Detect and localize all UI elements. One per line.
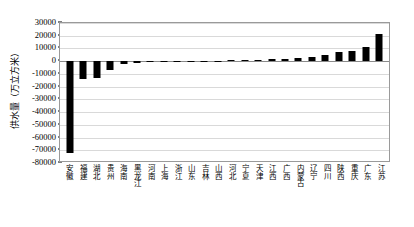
x-label-slot: 安徽 (62, 164, 76, 224)
x-tick-label: 海南 (119, 164, 127, 179)
x-label-slot: 重庆 (346, 164, 360, 224)
x-label-slot: 辽宁 (306, 164, 320, 224)
bar[interactable] (268, 59, 275, 61)
bar[interactable] (66, 61, 73, 153)
bar-slot (130, 23, 143, 161)
x-tick-label: 山东 (187, 164, 195, 179)
bar-slot (184, 23, 197, 161)
x-label-slot: 陕西 (333, 164, 347, 224)
bar-slot (76, 23, 89, 161)
bar[interactable] (214, 61, 221, 62)
x-tick-label: 湖北 (92, 164, 100, 179)
y-tick-label: -80000 (32, 157, 56, 167)
bar-slot (238, 23, 251, 161)
x-tick-label: 安徽 (65, 164, 73, 179)
bar[interactable] (255, 60, 262, 61)
y-tick-label: 20000 (35, 30, 56, 40)
y-tick-label: -30000 (32, 93, 56, 103)
bar-slot (265, 23, 278, 161)
bar[interactable] (160, 61, 167, 62)
bar[interactable] (174, 61, 181, 62)
x-label-slot: 湖北 (89, 164, 103, 224)
x-tick-label: 宁夏 (241, 164, 249, 179)
bar[interactable] (93, 61, 100, 78)
x-label-slot: 广东 (360, 164, 374, 224)
bar-slot (157, 23, 170, 161)
x-tick-label: 内蒙古 (295, 164, 303, 187)
bar[interactable] (187, 61, 194, 62)
x-label-slot: 内蒙古 (292, 164, 306, 224)
bar-slot (90, 23, 103, 161)
x-label-slot: 贵州 (103, 164, 117, 224)
x-label-slot: 山东 (184, 164, 198, 224)
x-tick-label: 广东 (363, 164, 371, 179)
x-label-slot: 四川 (319, 164, 333, 224)
x-axis-tick-labels: 安徽福建湖北贵州海南黑龙江河南上海浙江山东吉林山西河北宁夏天津江西广西内蒙古辽宁… (59, 164, 390, 224)
plot-area (59, 22, 390, 162)
x-tick-label: 辽宁 (309, 164, 317, 179)
y-tick-label: 0 (52, 55, 56, 65)
x-tick-label: 浙江 (173, 164, 181, 179)
x-tick-label: 河南 (146, 164, 154, 179)
bar[interactable] (133, 61, 140, 63)
bar[interactable] (322, 55, 329, 62)
bar[interactable] (362, 47, 369, 62)
x-tick-label: 江西 (268, 164, 276, 179)
x-tick-label: 广西 (282, 164, 290, 179)
bar[interactable] (241, 60, 248, 61)
x-label-slot: 海南 (116, 164, 130, 224)
bar-slot (103, 23, 116, 161)
x-label-slot: 山西 (211, 164, 225, 224)
bar[interactable] (349, 51, 356, 61)
bar-slot (198, 23, 211, 161)
x-tick-label: 黑龙江 (133, 164, 141, 187)
bar[interactable] (335, 52, 342, 62)
y-tick-label: -40000 (32, 106, 56, 116)
y-axis-title-text: 供水量（万立方米） (8, 48, 21, 129)
bar-slot (332, 23, 345, 161)
bar[interactable] (281, 59, 288, 61)
y-tick-label: 10000 (35, 42, 56, 52)
bar[interactable] (376, 34, 383, 61)
bar[interactable] (228, 60, 235, 61)
bar-slot (292, 23, 305, 161)
x-tick-label: 山西 (214, 164, 222, 179)
bar[interactable] (120, 61, 127, 64)
x-label-slot: 宁夏 (238, 164, 252, 224)
bar-slot (117, 23, 130, 161)
bar[interactable] (147, 61, 154, 62)
x-tick-label: 河北 (227, 164, 235, 179)
y-tick-label: -10000 (32, 68, 56, 78)
x-tick-label: 福建 (78, 164, 86, 179)
bar-slot (211, 23, 224, 161)
x-tick-label: 贵州 (105, 164, 113, 179)
bar-chart: 供水量（万立方米） 3000020000100000-10000-20000-3… (0, 0, 414, 227)
x-label-slot: 浙江 (170, 164, 184, 224)
bar-slot (319, 23, 332, 161)
bar-slot (346, 23, 359, 161)
x-tick-label: 吉林 (200, 164, 208, 179)
x-tick-label: 陕西 (336, 164, 344, 179)
bar-slot (63, 23, 76, 161)
bar-slot (359, 23, 372, 161)
bar-slot (305, 23, 318, 161)
x-label-slot: 上海 (157, 164, 171, 224)
x-label-slot: 河南 (143, 164, 157, 224)
bar[interactable] (308, 57, 315, 62)
x-label-slot: 吉林 (197, 164, 211, 224)
x-label-slot: 福建 (76, 164, 90, 224)
x-label-slot: 江苏 (374, 164, 388, 224)
x-tick-label: 江苏 (376, 164, 384, 179)
bar[interactable] (80, 61, 87, 79)
bar[interactable] (295, 58, 302, 61)
x-label-slot: 黑龙江 (130, 164, 144, 224)
bar[interactable] (201, 61, 208, 62)
x-tick-label: 四川 (322, 164, 330, 179)
y-tick-label: -20000 (32, 81, 56, 91)
bar-slot (224, 23, 237, 161)
bar[interactable] (107, 61, 114, 70)
bar-slot (251, 23, 264, 161)
x-label-slot: 天津 (252, 164, 266, 224)
y-axis-tick-labels: 3000020000100000-10000-20000-30000-40000… (20, 22, 58, 162)
x-tick-label: 天津 (254, 164, 262, 179)
